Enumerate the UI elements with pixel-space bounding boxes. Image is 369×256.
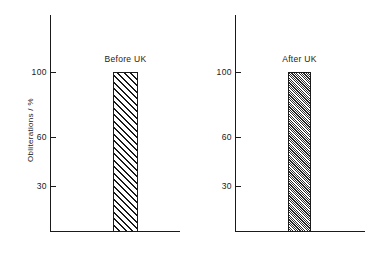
- y-tick-mark-60-left: [51, 137, 56, 138]
- y-tick-label-60-right: 60: [213, 133, 232, 142]
- y-tick-mark-100-left: [51, 72, 56, 73]
- bar-label-before-uk: Before UK: [93, 55, 158, 64]
- bar-label-after-uk: After UK: [268, 55, 331, 64]
- y-tick-label-100-right: 100: [213, 68, 232, 77]
- y-tick-mark-100-right: [236, 72, 241, 73]
- y-tick-label-100-left: 100: [28, 68, 47, 77]
- chart-panel-after-uk: 100 60 30 After UK: [185, 0, 369, 256]
- y-tick-label-30-right: 30: [213, 182, 232, 191]
- y-tick-label-60-left: 60: [28, 133, 47, 142]
- figure-two-panel-bar-chart: Obliterations / % 100 60 30 Before UK 10…: [0, 0, 369, 256]
- chart-panel-before-uk: Obliterations / % 100 60 30 Before UK: [0, 0, 185, 256]
- y-axis-line-left: [50, 15, 51, 232]
- y-tick-mark-30-right: [236, 186, 241, 187]
- y-axis-title-left: Obliterations / %: [26, 98, 35, 162]
- y-tick-mark-30-left: [51, 186, 56, 187]
- bar-after-uk: [288, 72, 311, 232]
- y-axis-line-right: [235, 15, 236, 232]
- y-tick-label-30-left: 30: [28, 182, 47, 191]
- bar-before-uk: [113, 72, 138, 232]
- y-tick-mark-60-right: [236, 137, 241, 138]
